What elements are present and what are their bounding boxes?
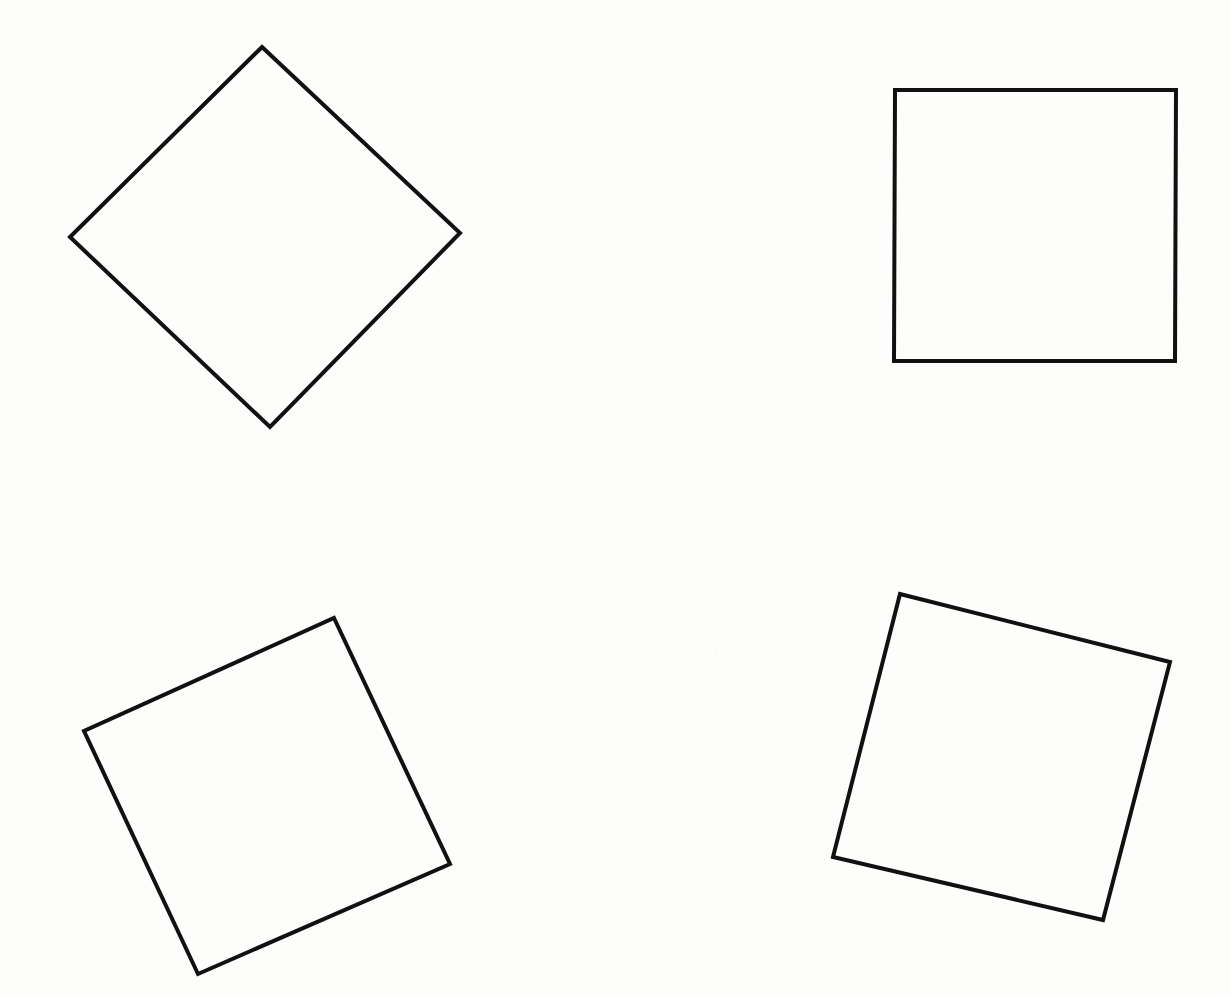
shape-square-1-top-left-diamond[interactable]	[70, 47, 460, 427]
shape-square-4-bottom-right-tilted[interactable]	[833, 594, 1170, 920]
worksheet-page	[0, 0, 1231, 995]
shape-square-3-bottom-left-tilted[interactable]	[84, 618, 450, 974]
shape-square-2-top-right-upright[interactable]	[894, 90, 1176, 361]
figure-canvas	[0, 0, 1231, 995]
